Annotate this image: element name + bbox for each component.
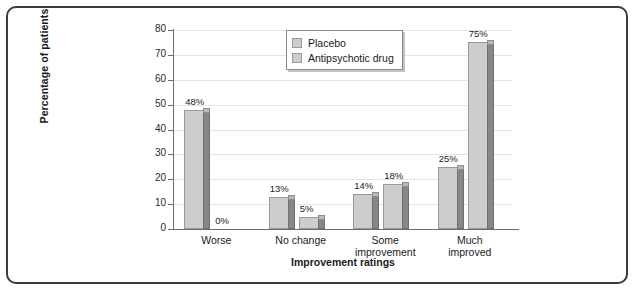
figure-frame: Percentage of patients Improvement ratin… — [6, 6, 628, 284]
y-axis-tick — [168, 130, 173, 131]
y-axis-tick-label: 10 — [126, 197, 166, 208]
bar-side-face — [402, 184, 409, 229]
bar-value-label: 13% — [270, 183, 289, 194]
bar-top-face — [203, 108, 210, 113]
y-axis-tick — [168, 154, 173, 155]
x-axis-tick-label-line: Much — [414, 234, 527, 246]
bar-value-label: 0% — [215, 215, 229, 226]
y-axis-tick-label: 80 — [126, 23, 166, 34]
x-axis-tick-label: Muchimproved — [414, 234, 527, 258]
y-axis-tick-label: 70 — [126, 48, 166, 59]
y-axis-tick — [168, 105, 173, 106]
bar-side-face — [457, 167, 464, 229]
y-axis-tick — [168, 80, 173, 81]
bar — [438, 167, 464, 229]
bar-value-label: 18% — [384, 170, 403, 181]
gridline — [174, 130, 512, 131]
bar-side-face — [487, 42, 494, 229]
legend-item-placebo: Placebo — [292, 35, 394, 50]
y-axis-tick — [168, 204, 173, 205]
bar-side-face — [372, 194, 379, 229]
y-axis-tick-label: 30 — [126, 147, 166, 158]
bar-top-face — [457, 165, 464, 170]
bar-top-face — [487, 40, 494, 45]
y-axis-tick — [168, 55, 173, 56]
y-axis-tick-label: 50 — [126, 98, 166, 109]
bar-side-face — [288, 197, 295, 229]
y-axis-title: Percentage of patients — [38, 0, 50, 146]
bar-value-label: 48% — [185, 96, 204, 107]
bar-top-face — [402, 182, 409, 187]
bar — [468, 42, 494, 229]
bar — [353, 194, 379, 229]
x-axis-line — [173, 229, 519, 230]
y-axis-tick-label: 60 — [126, 73, 166, 84]
x-axis-tick-label-line: improved — [414, 246, 527, 258]
bar-value-label: 14% — [354, 180, 373, 191]
bar-value-label: 25% — [439, 153, 458, 164]
legend-item-label: Antipsychotic drug — [308, 52, 394, 64]
y-axis-tick-label: 0 — [126, 222, 166, 233]
legend-item-antipsychotic-drug: Antipsychotic drug — [292, 50, 394, 65]
bar — [383, 184, 409, 229]
bar — [184, 110, 210, 229]
bar-side-face — [203, 110, 210, 229]
y-axis-tick — [168, 179, 173, 180]
gridline — [174, 105, 512, 106]
y-axis-tick — [168, 30, 173, 31]
gridline — [174, 80, 512, 81]
bar-top-face — [288, 195, 295, 200]
bar-top-face — [318, 215, 325, 220]
y-axis-tick-labels: 01020304050607080 — [120, 8, 166, 248]
y-axis-tick — [168, 229, 173, 230]
bar-top-face — [372, 192, 379, 197]
chart-legend: Placebo Antipsychotic drug — [286, 30, 403, 70]
legend-item-label: Placebo — [308, 37, 346, 49]
bar — [269, 197, 295, 229]
bar-value-label: 75% — [469, 28, 488, 39]
bar — [299, 217, 325, 229]
y-axis-tick-label: 40 — [126, 123, 166, 134]
bar-value-label: 5% — [300, 203, 314, 214]
gridline — [174, 154, 512, 155]
legend-swatch-icon — [292, 53, 302, 63]
y-axis-tick-label: 20 — [126, 172, 166, 183]
legend-swatch-icon — [292, 38, 302, 48]
